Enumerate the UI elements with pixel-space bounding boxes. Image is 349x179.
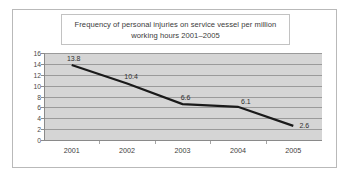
x-axis-line: [44, 140, 322, 141]
y-axis-tick-label: 6: [17, 104, 41, 111]
x-axis-tick-label: 2001: [64, 146, 80, 155]
data-point-label: 10.4: [124, 73, 138, 80]
y-axis-tick-label: 12: [17, 71, 41, 78]
y-axis-tick-label: 4: [17, 115, 41, 122]
x-axis-tick-mark: [155, 141, 156, 144]
x-axis-tick-mark: [210, 141, 211, 144]
x-axis-tick-label: 2005: [285, 146, 301, 155]
x-axis-tick-label: 2004: [230, 146, 246, 155]
data-point-label: 13.8: [67, 54, 81, 61]
data-point-label: 2.6: [299, 121, 309, 128]
x-axis-tick-label: 2002: [119, 146, 135, 155]
y-axis-tick-label: 14: [17, 60, 41, 67]
y-axis-tick-label: 8: [17, 93, 41, 100]
chart-title-box: Frequency of personal injuries on servic…: [61, 14, 290, 45]
y-axis: 0246810121416: [13, 10, 41, 169]
y-axis-tick-label: 2: [17, 126, 41, 133]
chart-title: Frequency of personal injuries on servic…: [66, 19, 285, 41]
x-axis-tick-mark: [99, 141, 100, 144]
y-axis-tick-label: 16: [17, 50, 41, 57]
y-axis-tick-label: 0: [17, 137, 41, 144]
y-axis-tick-label: 10: [17, 82, 41, 89]
data-point-label: 6.6: [181, 94, 191, 101]
chart-frame: Frequency of personal injuries on servic…: [12, 9, 337, 168]
x-axis-tick-mark: [266, 141, 267, 144]
x-axis-tick-label: 2003: [175, 146, 191, 155]
data-point-label: 6.1: [241, 97, 251, 104]
